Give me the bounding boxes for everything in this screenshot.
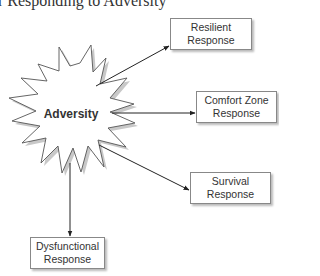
resilient-line2: Response: [187, 34, 234, 47]
resilient-response-box: Resilient Response: [170, 18, 252, 50]
comfort-zone-line1: Comfort Zone: [204, 94, 268, 107]
dysfunctional-line1: Dysfunctional: [36, 240, 99, 253]
dysfunctional-response-box: Dysfunctional Response: [30, 237, 105, 269]
survival-line2: Response: [207, 188, 254, 201]
comfort-zone-response-box: Comfort Zone Response: [196, 91, 277, 123]
adversity-label: Adversity: [40, 107, 102, 121]
resilient-line1: Resilient: [187, 21, 234, 34]
survival-response-box: Survival Response: [190, 172, 271, 204]
survival-line1: Survival: [207, 175, 254, 188]
arrow-to-survival: [99, 145, 189, 190]
dysfunctional-line2: Response: [36, 253, 99, 266]
comfort-zone-line2: Response: [204, 107, 268, 120]
